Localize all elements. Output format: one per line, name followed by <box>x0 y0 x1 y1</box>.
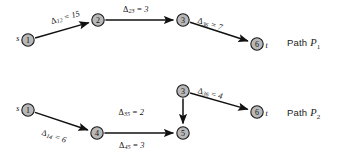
edge-label-P2-35: Δ35 = 2 <box>119 108 144 118</box>
node-number: 1 <box>26 106 30 115</box>
caption-symbol: P1 <box>310 37 320 48</box>
node-number: 3 <box>181 87 185 96</box>
node-P1-1[interactable]: 1 <box>22 34 34 46</box>
source-label-s: s <box>16 104 19 113</box>
edge-label-P1-12: Δ12 = 15 <box>50 9 81 26</box>
path-p2-caption: Path P2 <box>287 107 321 121</box>
node-number: 4 <box>95 129 99 138</box>
node-number: 6 <box>255 40 259 49</box>
sink-label-t: t <box>265 109 268 118</box>
caption-symbol: P2 <box>310 107 320 118</box>
caption-subscript: 2 <box>317 113 321 121</box>
node-P1-3[interactable]: 3 <box>177 14 189 26</box>
edge-P1-1-to-2 <box>35 23 89 38</box>
edge-label-P1-36: Δ36 = 7 <box>197 16 225 33</box>
caption-subscript: 1 <box>317 43 321 51</box>
node-P1-2[interactable]: 2 <box>92 14 104 26</box>
sink-label-t: t <box>265 41 268 50</box>
node-number: 1 <box>26 36 30 45</box>
node-P2-4[interactable]: 4 <box>91 127 103 139</box>
edge-label-P1-23: Δ23 = 3 <box>123 5 148 15</box>
node-number: 6 <box>255 108 259 117</box>
edge-labels-layer: Δ12 = 15Δ23 = 3Δ36 = 7Δ14 = 6Δ45 = 3Δ35 … <box>40 5 224 151</box>
source-label-s: s <box>16 34 19 43</box>
node-P2-5[interactable]: 5 <box>177 127 189 139</box>
edge-label-P2-45: Δ45 = 3 <box>119 141 144 151</box>
figure-canvas: 1s236t1s4536t Δ12 = 15Δ23 = 3Δ36 = 7Δ14 … <box>0 0 337 156</box>
caption-prefix: Path <box>287 107 310 118</box>
node-number: 2 <box>96 16 100 25</box>
edge-label-P2-14: Δ14 = 6 <box>40 128 68 145</box>
node-P2-3[interactable]: 3 <box>177 85 189 97</box>
node-P2-1[interactable]: 1 <box>22 104 34 116</box>
path-p1-caption: Path P1 <box>287 37 321 51</box>
node-P2-6[interactable]: 6 <box>251 106 263 118</box>
node-number: 5 <box>181 129 185 138</box>
node-number: 3 <box>181 16 185 25</box>
graph-diagram: 1s236t1s4536t Δ12 = 15Δ23 = 3Δ36 = 7Δ14 … <box>0 0 337 156</box>
caption-prefix: Path <box>287 37 310 48</box>
node-P1-6[interactable]: 6 <box>251 38 263 50</box>
